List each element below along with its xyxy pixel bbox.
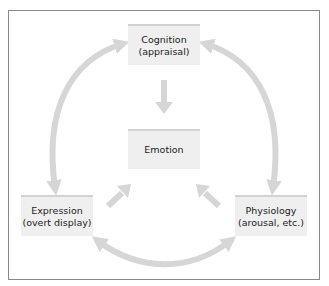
arrow-cognition-physiology <box>206 44 275 188</box>
node-expression: Expression (overt display) <box>21 195 93 236</box>
node-physiology: Physiology (arousal, etc.) <box>235 195 307 236</box>
node-emotion-title: Emotion <box>144 144 183 156</box>
arrow-expression-to-emotion <box>108 184 131 206</box>
node-expression-title: Expression <box>31 205 83 217</box>
arrow-expression-physiology <box>98 241 230 264</box>
node-cognition-title: Cognition <box>141 34 186 46</box>
arrow-physiology-to-emotion <box>196 184 219 206</box>
arrow-cognition-to-emotion <box>155 80 173 114</box>
node-physiology-subtitle: (arousal, etc.) <box>238 217 304 229</box>
node-physiology-title: Physiology <box>246 205 297 217</box>
arrow-cognition-expression <box>53 44 122 188</box>
node-cognition: Cognition (appraisal) <box>128 24 200 65</box>
node-expression-subtitle: (overt display) <box>22 217 91 229</box>
node-emotion: Emotion <box>128 129 200 169</box>
node-cognition-subtitle: (appraisal) <box>138 46 189 58</box>
